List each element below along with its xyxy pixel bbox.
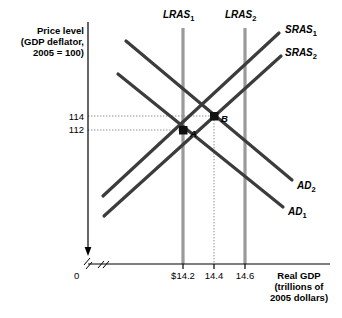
- curve-label-sras1-sub: 1: [313, 29, 317, 38]
- curve-label-sras2: SRAS2: [285, 47, 317, 62]
- y-axis-arrow: [85, 247, 92, 256]
- curve-label-lras2-sub: 2: [252, 14, 256, 23]
- x-axis-title: Real GDP (trillions of 2005 dollars): [258, 270, 340, 304]
- curve-sras1: [103, 33, 279, 196]
- curve-ad2: [126, 41, 292, 180]
- curve-label-ad1-sub: 1: [302, 211, 306, 220]
- x-axis-title-line3: 2005 dollars): [258, 292, 340, 303]
- point-marker-b: [210, 112, 219, 121]
- curve-label-lras1-sub: 1: [190, 14, 194, 23]
- curve-label-ad1-text: AD: [288, 206, 302, 217]
- y-axis-title-line2: (GDP deflator,: [8, 36, 84, 47]
- x-axis-title-line1: Real GDP: [258, 270, 340, 281]
- curve-label-sras2-text: SRAS: [285, 47, 313, 58]
- curve-label-sras1: SRAS1: [285, 24, 317, 39]
- point-marker-a: [179, 126, 188, 135]
- curve-label-ad2-text: AD: [297, 180, 311, 191]
- y-axis-break-mark-2: [86, 262, 92, 269]
- point-label-b: B: [221, 113, 228, 124]
- y-axis-title-line1: Price level: [8, 25, 84, 36]
- curve-ad1: [118, 74, 283, 207]
- y-tick-label-114: 114: [42, 111, 84, 122]
- point-label-a: A: [190, 128, 197, 139]
- aggregate-demand-supply-chart: Price level (GDP deflator, 2005 = 100) 1…: [0, 0, 342, 318]
- y-axis-title-line3: 2005 = 100): [8, 47, 84, 58]
- curve-label-ad2: AD2: [297, 180, 316, 195]
- curve-label-ad1: AD1: [288, 206, 307, 221]
- curve-label-lras2-text: LRAS: [225, 9, 252, 20]
- curve-label-lras2: LRAS2: [225, 9, 256, 24]
- curve-label-ad2-sub: 2: [311, 185, 315, 194]
- curve-label-sras1-text: SRAS: [285, 24, 313, 35]
- curve-label-lras1: LRAS1: [163, 9, 194, 24]
- y-tick-label-112: 112: [42, 124, 84, 135]
- origin-label: 0: [74, 270, 79, 281]
- x-axis-title-line2: (trillions of: [258, 281, 340, 292]
- y-axis-title: Price level (GDP deflator, 2005 = 100): [8, 25, 84, 59]
- curve-label-lras1-text: LRAS: [163, 9, 190, 20]
- curve-label-sras2-sub: 2: [313, 52, 317, 61]
